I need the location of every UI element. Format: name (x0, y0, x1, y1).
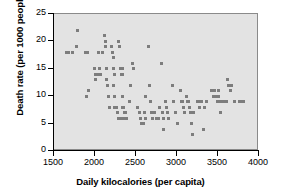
data-point (121, 67, 124, 70)
x-tick-mark (176, 151, 177, 156)
data-point (179, 89, 182, 92)
data-point (111, 51, 114, 54)
data-point (157, 117, 160, 120)
data-point (112, 56, 115, 59)
data-point (217, 95, 220, 98)
data-point (105, 78, 108, 81)
data-point (113, 95, 116, 98)
x-axis-label: Daily kilocalories (per capita) (0, 176, 281, 187)
data-point (217, 89, 220, 92)
data-point (124, 111, 127, 114)
data-point (202, 128, 205, 131)
x-tick-mark (217, 151, 218, 156)
data-point (105, 67, 108, 70)
x-tick-label: 1500 (33, 157, 73, 167)
data-point (121, 73, 124, 76)
data-point (128, 100, 131, 103)
x-tick-label: 2500 (115, 157, 155, 167)
data-point (147, 45, 150, 48)
data-point (118, 45, 121, 48)
y-tick-label: 5 (2, 117, 46, 127)
data-point (151, 117, 154, 120)
data-point (112, 84, 115, 87)
data-point (198, 106, 201, 109)
data-point (191, 133, 194, 136)
data-point (110, 45, 113, 48)
data-point (132, 67, 135, 70)
x-tick-mark (258, 151, 259, 156)
data-point (104, 40, 107, 43)
data-point (183, 111, 186, 114)
data-point (125, 117, 128, 120)
data-point (136, 106, 139, 109)
data-point (117, 40, 120, 43)
data-point (106, 84, 109, 87)
data-point (144, 117, 147, 120)
data-point (112, 67, 115, 70)
data-point (108, 106, 111, 109)
data-point (187, 100, 190, 103)
data-point (71, 51, 74, 54)
data-point (165, 106, 168, 109)
scatter-chart-figure: Death rate (per 1000 people) 0510152025 … (0, 0, 281, 196)
data-point (182, 106, 185, 109)
y-tick-label: 15 (2, 62, 46, 72)
data-point (97, 51, 100, 54)
data-point (162, 128, 165, 131)
data-point (176, 122, 179, 125)
data-point (158, 106, 161, 109)
data-point (161, 111, 164, 114)
data-point (93, 67, 96, 70)
data-point (229, 89, 232, 92)
data-point (225, 100, 228, 103)
data-point (104, 45, 107, 48)
data-point (167, 117, 170, 120)
x-tick-mark (135, 151, 136, 156)
x-tick-label: 3000 (156, 157, 196, 167)
data-point (190, 122, 193, 125)
data-point (219, 111, 222, 114)
data-point (144, 95, 147, 98)
data-point (143, 111, 146, 114)
data-point (76, 29, 79, 32)
data-point (107, 95, 110, 98)
y-tick-label: 0 (2, 144, 46, 154)
data-point (205, 100, 208, 103)
data-point (138, 111, 141, 114)
data-point (148, 84, 151, 87)
y-tick-mark (48, 123, 53, 124)
data-point (131, 62, 134, 65)
data-point (188, 106, 191, 109)
data-point (233, 100, 236, 103)
y-tick-label: 10 (2, 89, 46, 99)
data-point (203, 106, 206, 109)
data-point (103, 34, 106, 37)
data-point (192, 111, 195, 114)
y-tick-mark (48, 13, 53, 14)
y-axis-line (53, 13, 54, 151)
data-point (153, 111, 156, 114)
data-point (101, 51, 104, 54)
data-point (172, 100, 175, 103)
y-tick-label: 25 (2, 7, 46, 17)
data-point (230, 84, 233, 87)
data-point (164, 100, 167, 103)
data-point (171, 84, 174, 87)
data-point (116, 111, 119, 114)
data-point (139, 117, 142, 120)
x-tick-label: 3500 (197, 157, 237, 167)
y-tick-mark (48, 40, 53, 41)
data-point (115, 106, 118, 109)
x-axis-line (53, 150, 259, 151)
data-point (185, 95, 188, 98)
data-point (166, 111, 169, 114)
data-point (94, 78, 97, 81)
data-point (181, 100, 184, 103)
data-point (75, 45, 78, 48)
data-point (242, 100, 245, 103)
data-point (226, 78, 229, 81)
x-tick-label: 2000 (74, 157, 114, 167)
y-tick-mark (48, 95, 53, 96)
data-point (142, 122, 145, 125)
x-tick-label: 4000 (238, 157, 278, 167)
